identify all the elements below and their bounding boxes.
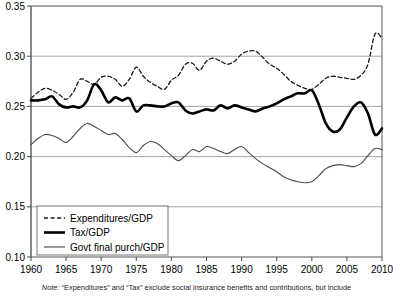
x-axis-tick-label: 1990 (230, 264, 253, 275)
x-axis-tick-label: 1995 (266, 264, 289, 275)
legend-label-3: Govt final purch/GDP (70, 242, 165, 253)
note-body: “Expenditures” and “Tax” exclude social … (62, 283, 352, 292)
note-prefix: Note: (42, 283, 60, 292)
x-axis-tick-label: 1975 (125, 264, 148, 275)
x-axis-tick-label: 1960 (20, 264, 43, 275)
y-axis-ticks: 0.100.150.200.250.300.35 (6, 1, 31, 263)
x-axis-ticks: 1960196519701975198019851990199520002005… (20, 257, 393, 275)
y-axis-tick-label: 0.10 (6, 252, 26, 263)
legend-label-2: Tax/GDP (70, 227, 110, 238)
y-axis-tick-label: 0.15 (6, 201, 26, 212)
x-axis-tick-label: 2005 (336, 264, 359, 275)
y-axis-tick-label: 0.20 (6, 151, 26, 162)
x-axis-tick-label: 1970 (90, 264, 113, 275)
y-axis-tick-label: 0.30 (6, 51, 26, 62)
x-axis-tick-label: 2000 (301, 264, 324, 275)
x-axis-tick-label: 1965 (55, 264, 78, 275)
y-axis-tick-label: 0.35 (6, 1, 26, 12)
legend-label-1: Expenditures/GDP (70, 213, 153, 224)
x-axis-tick-label: 1980 (160, 264, 183, 275)
chart-legend: Expenditures/GDPTax/GDPGovt final purch/… (37, 206, 168, 255)
chart-figure: 0.100.150.200.250.300.35 196019651970197… (0, 0, 393, 299)
expenditures-tax-govt-purchases-line-chart: 0.100.150.200.250.300.35 196019651970197… (0, 0, 393, 280)
x-axis-tick-label: 2010 (371, 264, 393, 275)
figure-note: Note: “Expenditures” and “Tax” exclude s… (0, 283, 393, 292)
x-axis-tick-label: 1985 (195, 264, 218, 275)
y-axis-tick-label: 0.25 (6, 101, 26, 112)
